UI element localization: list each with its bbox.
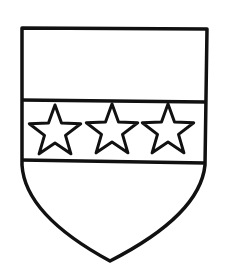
shield-figure <box>0 0 225 273</box>
fess-top-line <box>21 100 206 102</box>
